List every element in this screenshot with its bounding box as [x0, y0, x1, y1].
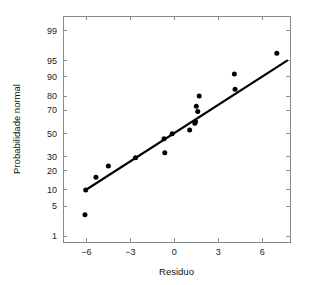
data-point-marker — [195, 109, 200, 114]
data-point-marker — [162, 136, 167, 141]
y-tick-label: 99 — [47, 26, 57, 36]
y-tick-label: 5 — [52, 201, 57, 211]
y-tick-label: 70 — [47, 105, 57, 115]
x-tick-label: 0 — [172, 247, 177, 257]
x-tick-label: 3 — [216, 247, 221, 257]
data-point-marker — [170, 131, 175, 136]
y-tick-label: 1 — [52, 231, 57, 241]
y-tick-label: 10 — [47, 185, 57, 195]
normal-probability-plot: −6−3036 15102030507080909599 Residuo Pro… — [0, 0, 314, 285]
y-axis-title: Probabilidade normal — [11, 84, 22, 174]
x-axis-ticks — [86, 16, 262, 242]
data-point-marker — [197, 94, 202, 99]
data-point-marker — [106, 163, 111, 168]
data-point-marker — [162, 150, 167, 155]
x-axis-title: Residuo — [159, 266, 194, 277]
plot-canvas: −6−3036 15102030507080909599 Residuo Pro… — [0, 0, 314, 285]
data-point-marker — [193, 119, 198, 124]
x-axis-tick-labels: −6−3036 — [81, 247, 264, 257]
y-tick-label: 90 — [47, 72, 57, 82]
y-tick-label: 30 — [47, 152, 57, 162]
y-tick-label: 20 — [47, 166, 57, 176]
x-tick-label: −6 — [81, 247, 91, 257]
plot-frame — [63, 16, 290, 242]
data-points — [82, 51, 279, 217]
x-tick-label: 6 — [260, 247, 265, 257]
data-point-marker — [83, 187, 88, 192]
reference-line-group — [86, 61, 287, 190]
y-tick-label: 95 — [47, 56, 57, 66]
y-axis-ticks — [63, 30, 290, 236]
data-point-marker — [233, 87, 238, 92]
data-point-marker — [93, 175, 98, 180]
data-point-marker — [194, 104, 199, 109]
y-axis-tick-labels: 15102030507080909599 — [47, 26, 57, 242]
data-point-marker — [274, 51, 279, 56]
reference-line — [86, 61, 287, 190]
data-point-marker — [133, 155, 138, 160]
data-point-marker — [187, 127, 192, 132]
y-tick-label: 80 — [47, 91, 57, 101]
x-tick-label: −3 — [125, 247, 135, 257]
y-tick-label: 50 — [47, 129, 57, 139]
data-point-marker — [82, 212, 87, 217]
data-point-marker — [232, 72, 237, 77]
